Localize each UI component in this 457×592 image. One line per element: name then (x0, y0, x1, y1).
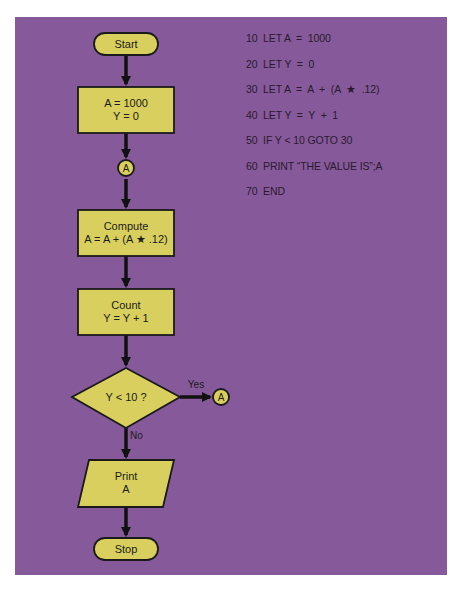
program-line-40: 40 LET Y = Y + 1 (246, 109, 382, 135)
program-line-70: 70 END (246, 185, 382, 211)
stop-label: Stop (94, 543, 158, 556)
program-line-60: 60 PRINT “THE VALUE IS”;A (246, 160, 382, 186)
compute-line2: A = A + (A ★ .12) (78, 233, 174, 246)
init-line2: Y = 0 (78, 110, 174, 123)
program-line-10: 10 LET A = 1000 (246, 32, 382, 58)
start-label: Start (94, 38, 158, 51)
print-line2: A (78, 483, 174, 496)
program-line-50: 50 IF Y < 10 GOTO 30 (246, 134, 382, 160)
program-line-30: 30 LET A = A + (A ★ .12) (246, 83, 382, 109)
yes-label: Yes (184, 378, 208, 391)
connector-a-label: A (118, 162, 134, 175)
no-label: No (130, 429, 150, 442)
init-line1: A = 1000 (78, 97, 174, 110)
count-line1: Count (78, 299, 174, 312)
decision-label: Y < 10 ? (86, 391, 166, 404)
count-line2: Y = Y + 1 (78, 312, 174, 325)
flowchart-graphics (0, 0, 457, 592)
yes-connector-a-label: A (213, 391, 229, 404)
program-line-20: 20 LET Y = 0 (246, 58, 382, 84)
print-line1: Print (78, 470, 174, 483)
basic-program-listing: 10 LET A = 1000 20 LET Y = 0 30 LET A = … (246, 32, 382, 211)
compute-line1: Compute (78, 220, 174, 233)
